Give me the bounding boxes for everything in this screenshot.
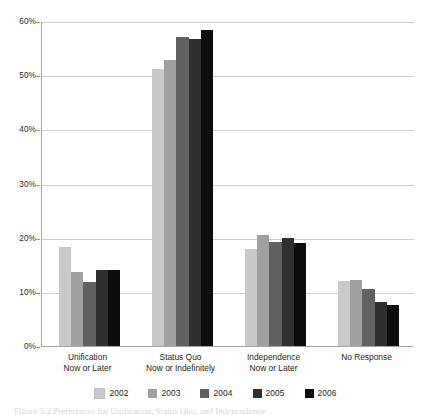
x-category-label: UnificationNow or Later bbox=[41, 352, 134, 375]
bar-2002-4 bbox=[338, 281, 350, 346]
plot-wrapper: 0%10%20%30%40%50%60% UnificationNow or L… bbox=[0, 0, 431, 352]
bars-layer bbox=[42, 22, 413, 346]
y-tick-label: 30% bbox=[19, 180, 36, 188]
grouped-bar-chart: 0%10%20%30%40%50%60% UnificationNow or L… bbox=[0, 0, 431, 415]
bar-group bbox=[338, 22, 399, 346]
bar-2002-3 bbox=[245, 249, 257, 347]
bar-group bbox=[152, 22, 213, 346]
x-category-label-line1: Unification bbox=[68, 352, 107, 362]
bar-group bbox=[245, 22, 306, 346]
x-category-label-line2: Now or Indefinitely bbox=[134, 363, 227, 374]
y-tick-label: 50% bbox=[19, 72, 36, 80]
legend-label: 2006 bbox=[318, 389, 337, 398]
bar-2002-1 bbox=[59, 247, 71, 346]
figure-caption: Figure 3.2 Preferences for Unification, … bbox=[14, 406, 414, 415]
y-axis: 0%10%20%30%40%50%60% bbox=[0, 0, 40, 352]
x-category-label-line1: No Response bbox=[341, 352, 392, 362]
bar-2005-2 bbox=[189, 39, 201, 346]
bar-2002-2 bbox=[152, 69, 164, 346]
bar-2005-1 bbox=[96, 270, 108, 346]
bar-2005-3 bbox=[282, 238, 294, 346]
figure-caption-strip: Figure 3.2 Preferences for Unification, … bbox=[14, 406, 414, 415]
bar-group bbox=[59, 22, 120, 346]
y-tick-mark bbox=[36, 347, 40, 348]
y-tick-mark bbox=[36, 293, 40, 294]
x-category-label-line1: Status Quo bbox=[160, 352, 202, 362]
bar-2003-2 bbox=[164, 60, 176, 346]
legend-label: 2004 bbox=[213, 389, 232, 398]
legend: 20022003200420052006 bbox=[0, 386, 431, 400]
y-tick-label: 60% bbox=[19, 18, 36, 26]
bar-2006-2 bbox=[201, 30, 213, 346]
y-tick-mark bbox=[36, 239, 40, 240]
legend-item-2004[interactable]: 2004 bbox=[200, 389, 232, 398]
legend-label: 2002 bbox=[109, 389, 128, 398]
legend-label: 2003 bbox=[161, 389, 180, 398]
legend-item-2006[interactable]: 2006 bbox=[305, 389, 337, 398]
legend-swatch-icon bbox=[94, 388, 105, 399]
bar-2003-1 bbox=[71, 272, 83, 346]
y-tick-mark bbox=[36, 185, 40, 186]
y-tick-mark bbox=[36, 76, 40, 77]
legend-swatch-icon bbox=[305, 389, 314, 398]
bar-2004-4 bbox=[362, 289, 374, 346]
legend-label: 2005 bbox=[266, 389, 285, 398]
x-category-label: Status QuoNow or Indefinitely bbox=[134, 352, 227, 375]
legend-item-2002[interactable]: 2002 bbox=[94, 388, 128, 399]
y-tick-mark bbox=[36, 130, 40, 131]
y-tick-label: 10% bbox=[19, 289, 36, 297]
bar-2004-2 bbox=[176, 37, 188, 346]
x-category-label: IndependenceNow or Later bbox=[227, 352, 320, 375]
bar-2005-4 bbox=[375, 302, 387, 346]
legend-swatch-icon bbox=[200, 389, 209, 398]
x-category-label: No Response bbox=[320, 352, 413, 363]
legend-swatch-icon bbox=[148, 389, 157, 398]
x-category-label-line2: Now or Later bbox=[227, 363, 320, 374]
legend-item-2005[interactable]: 2005 bbox=[253, 389, 285, 398]
y-tick-label: 20% bbox=[19, 235, 36, 243]
plot-area bbox=[41, 22, 413, 347]
bar-2006-1 bbox=[108, 270, 120, 346]
bar-2003-4 bbox=[350, 280, 362, 346]
legend-swatch-icon bbox=[253, 389, 262, 398]
x-axis: UnificationNow or LaterStatus QuoNow or … bbox=[41, 352, 413, 382]
bar-2003-3 bbox=[257, 235, 269, 346]
y-tick-mark bbox=[36, 22, 40, 23]
y-tick-label: 40% bbox=[19, 126, 36, 134]
bar-2004-3 bbox=[269, 242, 281, 346]
x-category-label-line2: Now or Later bbox=[41, 363, 134, 374]
bar-2006-4 bbox=[387, 305, 399, 346]
bar-2006-3 bbox=[294, 243, 306, 346]
x-category-label-line1: Independence bbox=[247, 352, 300, 362]
y-tick-label: 0% bbox=[24, 343, 36, 351]
bar-2004-1 bbox=[83, 282, 95, 346]
legend-item-2003[interactable]: 2003 bbox=[148, 389, 180, 398]
